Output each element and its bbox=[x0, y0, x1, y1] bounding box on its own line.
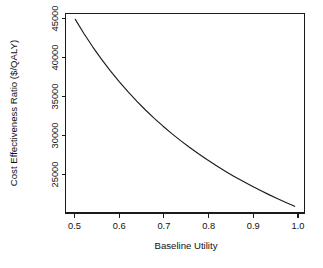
y-axis-title: Cost Effectiveness Ratio ($/QALY) bbox=[8, 40, 19, 186]
y-tick-label-40000: 40000 bbox=[50, 45, 60, 71]
y-tick-label-45000: 45000 bbox=[50, 6, 60, 32]
x-tick-label-1-0: 1.0 bbox=[292, 221, 305, 231]
x-tick-label-0-9: 0.9 bbox=[247, 221, 260, 231]
x-tick-label-0-8: 0.8 bbox=[202, 221, 215, 231]
x-tick-label-0-6: 0.6 bbox=[113, 221, 126, 231]
chart-canvas: 45000 40000 35000 30000 25000 Cost Effec… bbox=[0, 0, 323, 268]
y-tick-label-30000: 30000 bbox=[50, 123, 60, 149]
plot-figure: 45000 40000 35000 30000 25000 Cost Effec… bbox=[0, 0, 323, 268]
y-tick-label-35000: 35000 bbox=[50, 84, 60, 110]
y-tick-label-25000: 25000 bbox=[50, 162, 60, 188]
x-axis-title: Baseline Utility bbox=[155, 240, 218, 251]
x-tick-label-0-7: 0.7 bbox=[157, 221, 170, 231]
x-tick-label-0-5: 0.5 bbox=[68, 221, 81, 231]
